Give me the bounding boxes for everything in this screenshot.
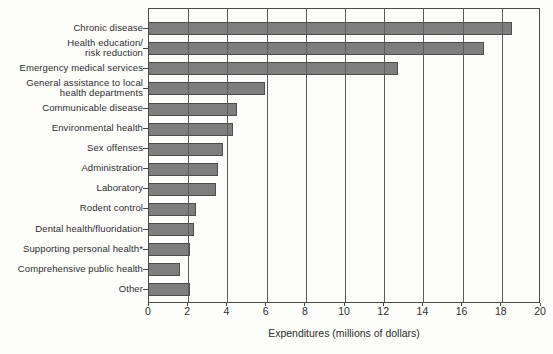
bar-chart-figure: Expenditures (millions of dollars) 02468… xyxy=(0,0,553,354)
x-axis-title: Expenditures (millions of dollars) xyxy=(148,327,540,339)
y-tick-mark xyxy=(143,88,148,89)
category-label-health-education-risk-reduction: Health education/ risk reduction xyxy=(0,37,143,58)
category-label-laboratory: Laboratory xyxy=(0,183,143,194)
y-tick-mark xyxy=(143,68,148,69)
x-tick-label: 10 xyxy=(338,306,350,317)
x-tick-label: 2 xyxy=(184,306,190,317)
y-tick-mark xyxy=(143,148,148,149)
bar-general-assistance-to-local-health-departments xyxy=(149,82,265,95)
gridline-x-10 xyxy=(345,9,346,302)
bar-supporting-personal-health xyxy=(149,243,190,256)
x-tick-label: 0 xyxy=(145,306,151,317)
bar-health-education-risk-reduction xyxy=(149,42,484,55)
category-label-environmental-health: Environmental health xyxy=(0,123,143,134)
y-tick-mark xyxy=(143,289,148,290)
bar-chronic-disease xyxy=(149,22,512,35)
y-tick-mark xyxy=(143,208,148,209)
y-tick-mark xyxy=(143,249,148,250)
gridline-x-12 xyxy=(384,9,385,302)
gridline-x-14 xyxy=(423,9,424,302)
y-tick-mark xyxy=(143,269,148,270)
bar-sex-offenses xyxy=(149,143,223,156)
category-label-dental-health-fluoridation: Dental health/fluoridation xyxy=(0,223,143,234)
category-label-emergency-medical-services: Emergency medical services xyxy=(0,63,143,74)
category-label-supporting-personal-health: Supporting personal health* xyxy=(0,243,143,254)
x-tick-label: 6 xyxy=(263,306,269,317)
gridline-x-16 xyxy=(463,9,464,302)
x-tick-label: 12 xyxy=(377,306,389,317)
gridline-x-8 xyxy=(306,9,307,302)
category-label-comprehensive-public-health: Comprehensive public health xyxy=(0,263,143,274)
x-tick-label: 18 xyxy=(495,306,507,317)
gridline-x-4 xyxy=(227,9,228,302)
y-tick-mark xyxy=(143,168,148,169)
gridline-x-6 xyxy=(267,9,268,302)
category-label-general-assistance-to-local-health-departments: General assistance to local health depar… xyxy=(0,77,143,98)
category-label-communicable-disease: Communicable disease xyxy=(0,103,143,114)
y-tick-mark xyxy=(143,48,148,49)
y-tick-mark xyxy=(143,108,148,109)
bar-comprehensive-public-health xyxy=(149,263,180,276)
plot-area xyxy=(148,8,540,303)
x-tick-label: 4 xyxy=(223,306,229,317)
bar-administration xyxy=(149,163,218,176)
x-tick-label: 14 xyxy=(417,306,429,317)
y-tick-mark xyxy=(143,28,148,29)
gridline-x-18 xyxy=(502,9,503,302)
x-tick-label: 16 xyxy=(456,306,468,317)
category-label-sex-offenses: Sex offenses xyxy=(0,143,143,154)
bar-laboratory xyxy=(149,183,216,196)
y-tick-mark xyxy=(143,128,148,129)
y-tick-mark xyxy=(143,229,148,230)
x-tick-label: 20 xyxy=(534,306,546,317)
bar-other xyxy=(149,283,190,296)
gridline-x-2 xyxy=(188,9,189,302)
x-tick-label: 8 xyxy=(302,306,308,317)
bar-emergency-medical-services xyxy=(149,62,398,75)
category-label-rodent-control: Rodent control xyxy=(0,203,143,214)
bar-communicable-disease xyxy=(149,103,237,116)
bar-environmental-health xyxy=(149,123,233,136)
category-label-other: Other xyxy=(0,283,143,294)
y-tick-mark xyxy=(143,188,148,189)
category-label-administration: Administration xyxy=(0,163,143,174)
category-label-chronic-disease: Chronic disease xyxy=(0,22,143,33)
